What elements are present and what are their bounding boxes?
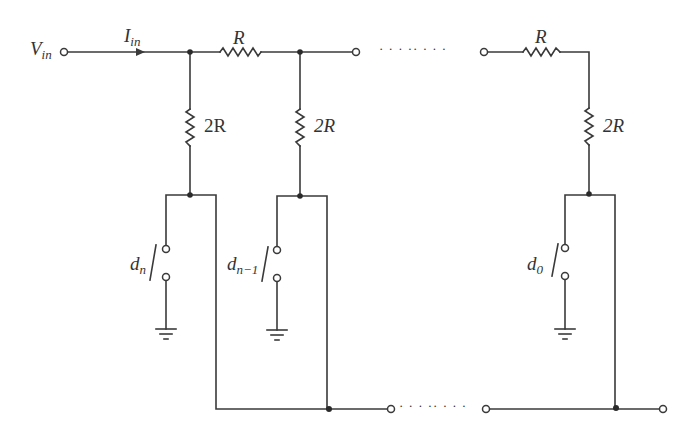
resistor-r1 — [220, 48, 261, 56]
terminal — [388, 406, 395, 413]
wire — [565, 195, 615, 409]
terminal — [481, 49, 488, 56]
junction-dot — [613, 405, 619, 411]
schematic-svg — [0, 0, 699, 439]
switch-label-d0: d0 — [527, 254, 543, 276]
iin-label: Iin — [124, 26, 140, 48]
junction-dot — [297, 193, 303, 199]
r-last-label: R — [535, 27, 547, 46]
vin-label: Vin — [30, 39, 52, 61]
resistor-2r-n — [186, 109, 194, 146]
switch-lever-n — [150, 245, 156, 280]
terminal — [483, 406, 490, 413]
resistor-2r-0 — [585, 108, 593, 145]
junction-dot — [297, 49, 303, 55]
ground-icon — [267, 330, 287, 340]
switch-label-dn1: dn−1 — [227, 254, 258, 276]
circuit-diagram: Vin Iin R R 2R 2R 2R dn dn−1 d0 · · · ··… — [0, 0, 699, 439]
output-terminal — [660, 406, 667, 413]
junction-dot — [586, 191, 592, 197]
switch-lever-n1 — [262, 247, 268, 281]
wire — [277, 196, 327, 409]
junction-dot — [187, 192, 193, 198]
r1-label: R — [233, 28, 245, 47]
resistor-r-last — [523, 48, 560, 56]
bottom-ellipsis: · · · ·· · · · — [399, 399, 467, 412]
switch-label-dn: dn — [130, 254, 146, 276]
switch-contact — [163, 274, 170, 281]
switch-contact — [562, 273, 569, 280]
ground-icon — [555, 329, 575, 339]
wire — [166, 195, 330, 409]
switch-lever-0 — [552, 244, 558, 276]
junction-dot — [326, 406, 332, 412]
junction-dot — [187, 49, 193, 55]
r2r-label-3: 2R — [603, 116, 624, 135]
current-arrow-icon — [136, 48, 145, 56]
r2r-label-2: 2R — [314, 116, 335, 135]
switch-contact — [562, 245, 569, 252]
ground-icon — [156, 329, 176, 339]
switch-contact — [274, 275, 281, 282]
top-ellipsis: · · · ·· · · · — [379, 42, 447, 55]
switch-contact — [163, 246, 170, 253]
vin-terminal — [61, 49, 68, 56]
wire — [560, 52, 589, 108]
r2r-label-1: 2R — [204, 116, 226, 135]
resistor-2r-n1 — [296, 109, 304, 146]
switch-contact — [274, 247, 281, 254]
terminal — [353, 49, 360, 56]
